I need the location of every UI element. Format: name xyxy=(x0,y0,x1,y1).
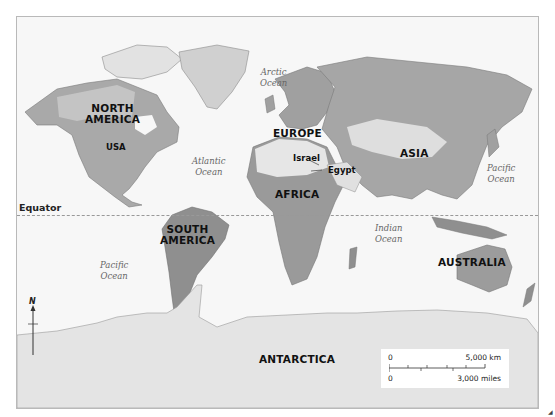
label-pacific-ocean-east: PacificOcean xyxy=(487,163,515,186)
label-indian-ocean: IndianOcean xyxy=(375,223,403,246)
label-pacific-ocean-west: PacificOcean xyxy=(100,260,128,283)
label-south-america: SOUTH AMERICA xyxy=(160,224,215,246)
madagascar-shape xyxy=(349,247,357,269)
scale-bar: 0 5,000 km 0 3,000 miles xyxy=(381,349,509,388)
equator-label: Equator xyxy=(19,202,61,213)
israel-egypt-leader-lines xyxy=(307,157,337,177)
scale-km-value: 5,000 km xyxy=(465,353,501,362)
label-north-america: NORTH AMERICA xyxy=(85,103,140,125)
uk-shape xyxy=(265,95,275,113)
new-zealand-shape xyxy=(523,283,535,307)
world-map: Equator NORTH AMERICA SOUTH AMERICA EURO… xyxy=(16,16,539,409)
label-antarctica: ANTARCTICA xyxy=(259,354,335,365)
label-europe: EUROPE xyxy=(273,128,322,139)
label-africa: AFRICA xyxy=(275,189,319,200)
label-usa: USA xyxy=(106,143,126,152)
arctic-islands-shape xyxy=(102,45,182,79)
equator-line xyxy=(17,215,538,216)
north-arrow: N xyxy=(26,297,40,357)
antarctica-shape xyxy=(17,285,538,408)
scale-ruler xyxy=(389,364,487,374)
scale-km-zero: 0 xyxy=(388,353,393,362)
scale-miles-value: 3,000 miles xyxy=(457,374,501,383)
north-arrow-icon xyxy=(26,305,40,357)
scale-miles-zero: 0 xyxy=(388,374,393,383)
label-arctic-ocean: ArcticOcean xyxy=(260,67,287,90)
label-atlantic-ocean: AtlanticOcean xyxy=(192,156,226,179)
australia-shape xyxy=(457,245,512,292)
indonesia-shape xyxy=(432,217,507,239)
label-asia: ASIA xyxy=(400,148,429,159)
greenland-shape xyxy=(179,45,249,109)
label-australia: AUSTRALIA xyxy=(438,257,506,268)
corner-mark: ◢ xyxy=(548,408,553,415)
